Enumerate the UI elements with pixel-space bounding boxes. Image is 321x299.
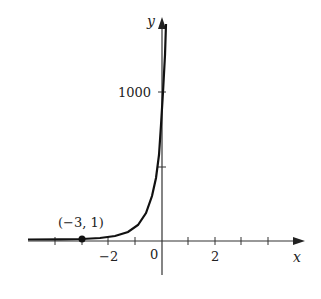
- exponential-graph: y x 1000 −2 0 2 (−3, 1): [0, 0, 321, 299]
- x-axis-label: x: [293, 249, 301, 265]
- tick-label-2: 2: [211, 249, 219, 264]
- point-marker: [79, 236, 86, 243]
- tick-label-neg2: −2: [99, 249, 118, 264]
- point-label: (−3, 1): [58, 215, 104, 230]
- x-axis-arrow-icon: [293, 237, 305, 245]
- tick-label-1000: 1000: [118, 85, 151, 100]
- exponential-curve: [28, 24, 166, 240]
- tick-label-0: 0: [150, 247, 158, 262]
- y-axis-label: y: [146, 13, 156, 29]
